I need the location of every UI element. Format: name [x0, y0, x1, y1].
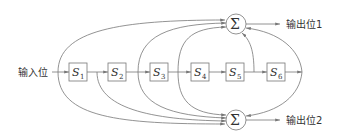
register-s6: S 6: [267, 63, 285, 81]
output-1-label: 输出位1: [286, 18, 322, 30]
svg-text:S: S: [111, 66, 119, 79]
sigma-icon: Σ: [230, 16, 240, 32]
svg-text:4: 4: [202, 73, 207, 81]
register-s1: S 1: [69, 63, 87, 81]
svg-text:S: S: [270, 66, 278, 79]
svg-text:3: 3: [161, 73, 165, 81]
svg-text:S: S: [194, 66, 202, 79]
adder-2: Σ: [226, 110, 246, 130]
svg-text:6: 6: [278, 73, 283, 81]
encoder-diagram: 输入位 S 1 S 2 S 3 S 4 S 5 S 6: [0, 0, 338, 137]
svg-text:S: S: [72, 66, 80, 79]
input-label: 输入位: [18, 66, 48, 78]
register-s2: S 2: [108, 63, 126, 81]
svg-text:S: S: [153, 66, 161, 79]
adder-1: Σ: [226, 14, 246, 34]
taps-to-adder-2: [58, 72, 302, 124]
svg-text:2: 2: [119, 73, 123, 81]
svg-text:1: 1: [80, 73, 84, 81]
register-s5: S 5: [226, 63, 244, 81]
taps-to-adder-1: [58, 20, 302, 72]
svg-text:5: 5: [237, 73, 241, 81]
svg-text:S: S: [229, 66, 237, 79]
sigma-icon: Σ: [230, 112, 240, 128]
output-2-label: 输出位2: [286, 114, 322, 126]
register-s3: S 3: [150, 63, 168, 81]
register-s4: S 4: [191, 63, 209, 81]
